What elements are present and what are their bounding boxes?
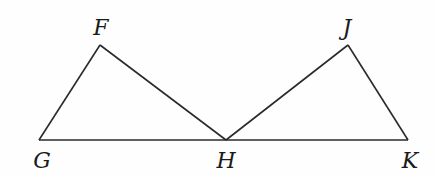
point-label-f: F: [92, 15, 109, 40]
point-label-k: K: [401, 148, 420, 173]
diagram-svg: F G H J K: [0, 0, 435, 177]
labels-group: F G H J K: [33, 15, 420, 173]
point-label-h: H: [215, 148, 236, 173]
point-label-j: J: [339, 15, 353, 40]
geometry-diagram: F G H J K: [0, 0, 435, 177]
segment-jk: [348, 45, 408, 140]
segment-fh: [100, 45, 226, 140]
segment-hj: [226, 45, 348, 140]
segment-gf: [39, 45, 100, 140]
point-label-g: G: [33, 148, 51, 173]
segments-group: [39, 45, 408, 140]
